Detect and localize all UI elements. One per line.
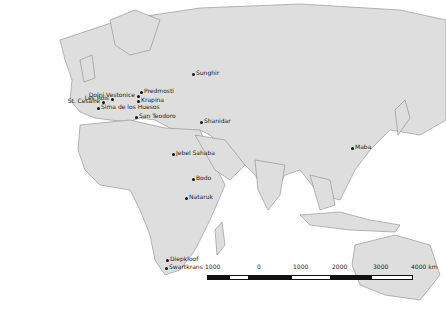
scale-label: 1000 xyxy=(293,263,308,270)
site-marker-icon[interactable] xyxy=(140,91,143,94)
site-label: San Teodoro xyxy=(139,113,176,119)
site-label: Swartkrans xyxy=(169,264,203,270)
scale-label: 1000 xyxy=(205,263,220,270)
site-marker-icon[interactable] xyxy=(200,121,203,124)
scale-label: 2000 xyxy=(332,263,347,270)
site-label: Diepkloof xyxy=(170,256,198,262)
scale-label: 3000 xyxy=(373,263,388,270)
scale-segment xyxy=(249,275,291,280)
site-label: Nataruk xyxy=(189,194,213,200)
site-marker-icon[interactable] xyxy=(165,267,168,270)
site-marker-icon[interactable] xyxy=(351,147,354,150)
site-marker-icon[interactable] xyxy=(166,259,169,262)
site-marker-icon[interactable] xyxy=(137,95,140,98)
world-map[interactable]: SunghirPredmostiDolni VestoniceLes RoisS… xyxy=(0,0,446,311)
site-label: Sunghir xyxy=(196,70,219,76)
site-marker-icon[interactable] xyxy=(192,73,195,76)
site-label: Predmosti xyxy=(144,88,174,94)
site-marker-icon[interactable] xyxy=(135,116,138,119)
scale-segment xyxy=(291,275,331,280)
site-marker-icon[interactable] xyxy=(192,178,195,181)
site-marker-icon[interactable] xyxy=(111,98,114,101)
site-label: Sima de los Huesos xyxy=(101,104,160,110)
site-label: Shanidar xyxy=(204,118,231,124)
site-marker-icon[interactable] xyxy=(97,107,100,110)
site-label: St. Cesaire xyxy=(68,98,100,104)
site-label: Bodo xyxy=(196,175,211,181)
scale-segment xyxy=(207,275,229,280)
scale-segment xyxy=(229,275,249,280)
site-label: Maba xyxy=(355,144,371,150)
scale-bar: 1000 0 1000 2000 3000 4000 km xyxy=(205,263,443,287)
site-marker-icon[interactable] xyxy=(172,153,175,156)
scale-segment xyxy=(331,275,371,280)
scale-segment xyxy=(371,275,413,280)
scale-label: 4000 km xyxy=(411,263,438,270)
site-label: Jebel Sahaba xyxy=(176,150,215,156)
site-marker-icon[interactable] xyxy=(185,197,188,200)
scale-label: 0 xyxy=(257,263,261,270)
